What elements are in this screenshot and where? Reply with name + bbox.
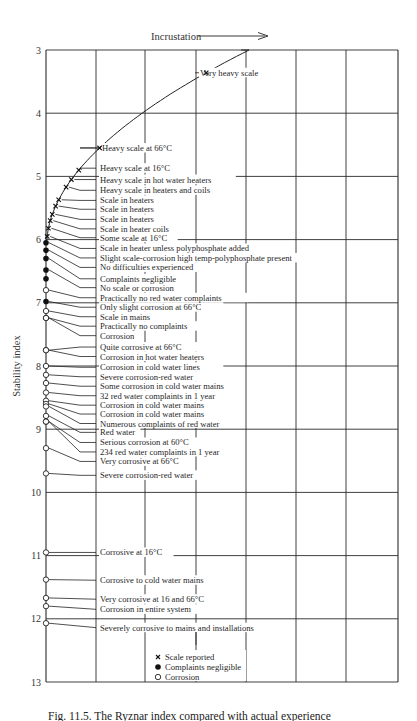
open-circle-marker-icon <box>43 348 48 353</box>
point-label: Severe corrosion-red water <box>100 470 193 480</box>
y-tick-label: 9 <box>36 424 41 435</box>
open-circle-marker-icon <box>43 577 48 582</box>
y-tick-label: 4 <box>36 108 41 119</box>
leader-line <box>49 623 96 627</box>
open-circle-marker-icon <box>43 380 48 385</box>
point-label: No difficulties experienced <box>100 262 194 272</box>
open-circle-marker-icon <box>155 674 160 679</box>
y-tick-label: 6 <box>36 234 41 245</box>
leader-line <box>49 448 96 461</box>
leader-line <box>62 200 96 201</box>
point-label: Red water <box>100 427 135 437</box>
y-axis: 345678910111213 <box>31 45 41 688</box>
leader-line <box>49 606 96 609</box>
leader-line <box>55 214 96 219</box>
open-circle-marker-icon <box>43 372 48 377</box>
point-label: Heavy scale at 16°C <box>100 163 170 173</box>
point-label: Corrosive to cold water mains <box>100 575 204 585</box>
chart-legend: Scale reportedComplaints negligibleCorro… <box>151 632 246 682</box>
filled-circle-marker-icon <box>43 248 49 254</box>
y-tick-label: 12 <box>31 613 41 624</box>
leader-line <box>59 206 96 209</box>
filled-circle-marker-icon <box>43 267 49 273</box>
leader-line <box>69 187 96 190</box>
chart-title-group: Incrustation <box>151 31 268 42</box>
leader-line <box>49 598 96 599</box>
y-tick-label: 3 <box>36 45 41 56</box>
leader-line <box>53 221 96 229</box>
stability-index-chart: Very heavy scaleHeavy scale at 66°CHeavy… <box>0 0 417 721</box>
figure-caption: Fig. 11.5. The Ryznar index compared wit… <box>48 708 408 721</box>
y-tick-label: 8 <box>36 361 41 372</box>
point-label: Corrosion in hot water heaters <box>100 352 205 362</box>
leader-line <box>80 168 96 170</box>
leader-line <box>49 393 96 396</box>
open-circle-marker-icon <box>43 595 48 600</box>
filled-circle-marker-icon <box>43 240 49 246</box>
point-label: Very corrosive at 16 and 66°C <box>100 594 204 604</box>
leader-line <box>49 250 96 267</box>
filled-circle-marker-icon <box>43 276 49 282</box>
chart-title: Incrustation <box>151 31 202 42</box>
y-tick-label: 5 <box>36 171 41 182</box>
open-circle-marker-icon <box>43 308 48 313</box>
x-marker-icon <box>69 177 73 181</box>
point-label: Corrosion <box>100 331 135 341</box>
filled-circle-marker-icon <box>43 256 49 262</box>
point-label: Scale in heaters <box>100 204 155 214</box>
arrow-right-icon <box>198 33 268 40</box>
leader-line <box>49 416 96 432</box>
open-circle-marker-icon <box>43 413 48 418</box>
point-label: Heavy scale at 66°C <box>102 143 172 153</box>
point-label: Heavy scale in heaters and coils <box>100 185 211 195</box>
x-marker-icon <box>77 168 81 172</box>
leader-line <box>49 375 96 377</box>
leader-line <box>49 259 96 279</box>
point-label: Corrosion in entire system <box>100 604 191 614</box>
open-circle-marker-icon <box>43 390 48 395</box>
point-label: Heavy scale in hot water heaters <box>100 175 212 185</box>
leader-line <box>49 290 96 298</box>
open-circle-marker-icon <box>43 419 48 424</box>
x-marker-icon <box>64 185 68 189</box>
open-circle-marker-icon <box>43 404 48 409</box>
point-label: Corrosive at 16°C <box>100 547 162 557</box>
filled-circle-marker-icon <box>43 299 49 305</box>
leader-line <box>49 406 96 423</box>
open-circle-marker-icon <box>43 621 48 626</box>
leader-line <box>49 383 96 386</box>
point-label: Severely corrosive to mains and installa… <box>100 623 255 633</box>
open-circle-marker-icon <box>43 315 48 320</box>
y-axis-label: Stability index <box>11 334 22 396</box>
filled-circle-marker-icon <box>155 664 161 670</box>
y-tick-label: 11 <box>31 550 41 561</box>
leader-line <box>49 401 96 405</box>
open-circle-marker-icon <box>43 287 48 292</box>
point-label: No scale or corrosion <box>100 283 174 293</box>
leader-line <box>49 311 96 317</box>
leader-line <box>49 580 96 581</box>
open-circle-marker-icon <box>43 445 48 450</box>
leader-line <box>49 318 96 336</box>
x-marker-icon <box>53 204 57 208</box>
point-label: Very corrosive at 66°C <box>100 456 179 466</box>
y-tick-label: 10 <box>31 487 41 498</box>
legend-label: Scale reported <box>165 652 215 662</box>
leader-line <box>49 473 96 475</box>
x-marker-icon <box>56 198 60 202</box>
open-circle-marker-icon <box>43 471 48 476</box>
leader-line <box>51 228 96 237</box>
open-circle-marker-icon <box>43 550 48 555</box>
y-tick-label: 13 <box>31 677 41 688</box>
leader-line <box>49 350 96 356</box>
point-label: Some scale at 16°C <box>100 233 167 243</box>
legend-label: Corrosion <box>165 672 200 682</box>
open-circle-marker-icon <box>43 603 48 608</box>
open-circle-marker-icon <box>43 363 48 368</box>
point-label: Very heavy scale <box>200 68 258 78</box>
y-tick-label: 7 <box>36 297 41 308</box>
legend-label: Complaints negligible <box>165 662 241 672</box>
leader-line <box>49 347 96 350</box>
